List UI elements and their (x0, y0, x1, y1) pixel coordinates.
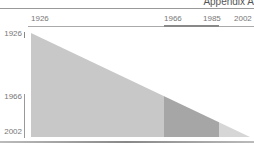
bottom-rule (0, 141, 254, 143)
segment-1966-1985 (164, 30, 219, 140)
segment-1985-2002 (219, 30, 254, 140)
timeline-triangle (0, 0, 254, 147)
segment-1926-1966 (31, 30, 164, 140)
